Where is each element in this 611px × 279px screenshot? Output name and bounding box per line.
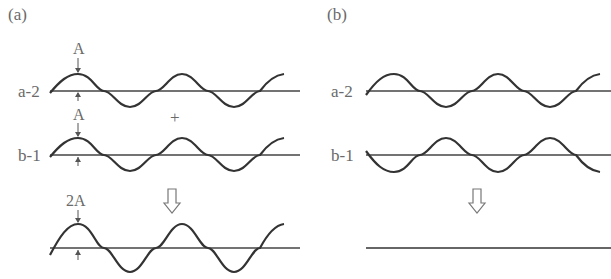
arrow-head-icon [75, 92, 81, 97]
arrow-head-icon [75, 68, 81, 73]
panel-a-row-a2: A a-2 [18, 40, 300, 107]
result-amplitude-label: 2A [66, 192, 86, 209]
panel-b-row-b1: b-1 [331, 138, 611, 172]
row-label: a-2 [18, 82, 40, 101]
interference-diagram: (a) A a-2 A + b-1 2A (b) a-2 [0, 0, 611, 279]
arrow-head-icon [75, 250, 81, 255]
amplitude-label: A [73, 106, 85, 123]
arrow-head-icon [75, 157, 81, 162]
result-arrow-icon [164, 189, 180, 213]
arrow-head-icon [75, 218, 81, 223]
panel-a-row-b1: A + b-1 [18, 106, 300, 171]
result-arrow-icon [469, 189, 485, 213]
arrow-head-icon [75, 132, 81, 137]
amplitude-label: A [73, 40, 85, 57]
row-label: a-2 [331, 82, 353, 101]
plus-operator: + [170, 108, 180, 127]
panel-a-label: (a) [8, 5, 27, 24]
panel-b-row-a2: a-2 [331, 74, 611, 107]
row-label: b-1 [331, 146, 354, 165]
panel-b-label: (b) [327, 5, 347, 24]
row-label: b-1 [18, 146, 41, 165]
